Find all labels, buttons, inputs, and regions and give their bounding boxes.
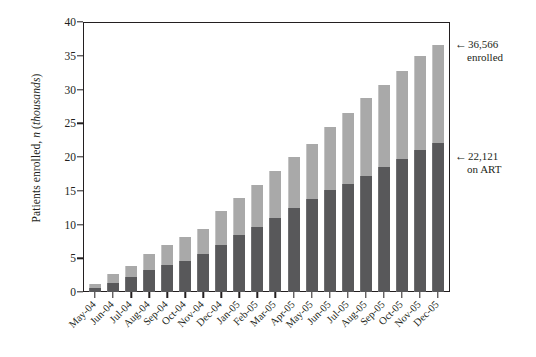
stacked-bar bbox=[378, 85, 390, 292]
annotation-enrolled-value: 36,566 bbox=[468, 38, 498, 50]
bar-segment-on-art bbox=[233, 235, 245, 292]
stacked-bar bbox=[125, 266, 137, 292]
bar-segment-on-art bbox=[143, 270, 155, 292]
bar-segment-on-art bbox=[161, 265, 173, 292]
bar-segment-on-art bbox=[396, 159, 408, 292]
bar-segment-on-art bbox=[197, 254, 209, 292]
bar-segment-on-art bbox=[215, 245, 227, 292]
annotation-enrolled: ←36,566 enrolled bbox=[455, 38, 503, 64]
bar-segment-enrolled bbox=[251, 185, 263, 227]
y-tick-mark bbox=[77, 291, 83, 292]
bar-segment-enrolled bbox=[324, 127, 336, 190]
y-axis-title-text-3: ) bbox=[30, 74, 42, 78]
stacked-bar bbox=[251, 185, 263, 292]
bar-segment-enrolled bbox=[432, 45, 444, 143]
chart-figure: Patients enrolled, n (thousands) 0510152… bbox=[0, 0, 536, 357]
y-axis-title-text-1: Patients enrolled, bbox=[30, 138, 42, 223]
y-tick-mark bbox=[77, 258, 83, 259]
y-tick-mark bbox=[77, 224, 83, 225]
bar-segment-on-art bbox=[251, 227, 263, 292]
bar-segment-enrolled bbox=[269, 171, 281, 219]
annotation-enrolled-arrow-icon: ← bbox=[455, 38, 467, 50]
stacked-bar bbox=[143, 254, 155, 292]
bar-column bbox=[248, 22, 266, 292]
bar-segment-on-art bbox=[414, 150, 426, 292]
y-axis-title-text-italic-n: n bbox=[30, 132, 42, 138]
stacked-bar bbox=[288, 157, 300, 292]
y-tick-mark bbox=[77, 21, 83, 22]
bar-segment-enrolled bbox=[161, 245, 173, 265]
bar-segment-enrolled bbox=[414, 56, 426, 150]
stacked-bar bbox=[342, 113, 354, 292]
bar-segment-enrolled bbox=[360, 98, 372, 176]
y-tick-mark bbox=[77, 55, 83, 56]
y-tick-mark bbox=[77, 190, 83, 191]
bar-segment-enrolled bbox=[215, 211, 227, 245]
annotation-on-art-arrow-icon: ← bbox=[455, 150, 467, 162]
stacked-bar bbox=[306, 144, 318, 292]
bar-segment-on-art bbox=[269, 218, 281, 292]
bar-segment-enrolled bbox=[378, 85, 390, 167]
bar-segment-enrolled bbox=[233, 198, 245, 234]
bar-segment-enrolled bbox=[125, 266, 137, 277]
stacked-bar bbox=[269, 171, 281, 292]
annotation-enrolled-label: enrolled bbox=[455, 51, 503, 64]
bar-column bbox=[393, 22, 411, 292]
bar-segment-on-art bbox=[324, 190, 336, 292]
bar-column bbox=[339, 22, 357, 292]
bar-segment-on-art bbox=[342, 184, 354, 292]
stacked-bar bbox=[107, 274, 119, 292]
bar-column bbox=[285, 22, 303, 292]
stacked-bar bbox=[215, 211, 227, 292]
bar-column bbox=[158, 22, 176, 292]
y-tick-mark bbox=[77, 123, 83, 124]
bar-column bbox=[429, 22, 447, 292]
y-axis-title-text-italic-thousands: thousands bbox=[30, 78, 42, 126]
bar-segment-on-art bbox=[306, 199, 318, 292]
bar-segment-on-art bbox=[288, 208, 300, 292]
bar-segment-enrolled bbox=[288, 157, 300, 208]
bar-column bbox=[266, 22, 284, 292]
bar-segment-on-art bbox=[179, 261, 191, 292]
stacked-bar bbox=[360, 98, 372, 292]
bar-segment-enrolled bbox=[396, 71, 408, 159]
y-tick-mark bbox=[77, 89, 83, 90]
bar-segment-on-art bbox=[125, 277, 137, 292]
bar-column bbox=[411, 22, 429, 292]
bar-segment-enrolled bbox=[179, 237, 191, 261]
bar-column bbox=[140, 22, 158, 292]
x-label-slot: Dec-05 bbox=[429, 298, 447, 354]
y-axis-title: Patients enrolled, n (thousands) bbox=[30, 8, 42, 288]
bar-column bbox=[230, 22, 248, 292]
bar-column bbox=[104, 22, 122, 292]
bar-column bbox=[86, 22, 104, 292]
stacked-bar bbox=[161, 245, 173, 292]
y-tick-mark bbox=[77, 156, 83, 157]
stacked-bar bbox=[432, 45, 444, 292]
annotation-on-art-value: 22,121 bbox=[468, 150, 498, 162]
bar-segment-enrolled bbox=[306, 144, 318, 199]
annotation-on-art: ←22,121 on ART bbox=[455, 150, 501, 176]
bar-column bbox=[176, 22, 194, 292]
bars-layer bbox=[84, 22, 449, 292]
bar-segment-on-art bbox=[107, 283, 119, 292]
bar-column bbox=[303, 22, 321, 292]
annotation-on-art-label: on ART bbox=[455, 163, 501, 176]
stacked-bar bbox=[396, 71, 408, 292]
y-axis-title-text-2: ( bbox=[30, 125, 42, 132]
bar-column bbox=[321, 22, 339, 292]
bar-column bbox=[194, 22, 212, 292]
bar-column bbox=[357, 22, 375, 292]
x-axis-labels: May-04Jun-04Jul-04Aug-04Sep-04Oct-04Nov-… bbox=[84, 298, 449, 354]
bar-column bbox=[212, 22, 230, 292]
bar-column bbox=[375, 22, 393, 292]
stacked-bar bbox=[233, 198, 245, 292]
bar-segment-enrolled bbox=[342, 113, 354, 184]
stacked-bar bbox=[324, 127, 336, 292]
bar-segment-enrolled bbox=[143, 254, 155, 270]
stacked-bar bbox=[179, 237, 191, 292]
stacked-bar bbox=[414, 56, 426, 292]
bar-segment-on-art bbox=[378, 167, 390, 292]
bar-column bbox=[122, 22, 140, 292]
bar-segment-enrolled bbox=[107, 274, 119, 283]
